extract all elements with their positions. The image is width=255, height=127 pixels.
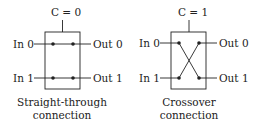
input-label-0: In 0	[13, 39, 34, 50]
output-label-0: Out 0	[93, 39, 123, 50]
input-label-1: In 1	[139, 73, 160, 84]
straight-caption: Straight-through connection	[12, 96, 112, 122]
caption-line-1: Straight-through	[12, 96, 112, 109]
caption-line-2: connection	[12, 109, 112, 122]
caption-line-1: Crossover	[139, 96, 239, 109]
control-label: C = 0	[51, 7, 81, 18]
output-label-1: Out 1	[93, 73, 123, 84]
input-label-1: In 1	[13, 73, 34, 84]
control-label: C = 1	[178, 7, 208, 18]
input-label-0: In 0	[139, 38, 160, 49]
output-label-0: Out 0	[219, 38, 249, 49]
switch-box	[45, 32, 80, 89]
straight-dots	[51, 42, 75, 80]
output-label-1: Out 1	[219, 73, 249, 84]
crossover-caption: Crossover connection	[139, 96, 239, 122]
straight-through-switch	[34, 20, 91, 89]
caption-line-2: connection	[139, 109, 239, 122]
crossover-switch	[160, 20, 217, 89]
